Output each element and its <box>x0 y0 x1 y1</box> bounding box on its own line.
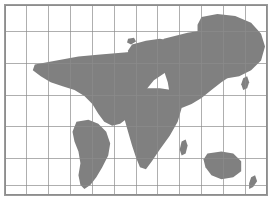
map-plot-area <box>4 4 268 196</box>
world-map-figure <box>0 0 272 203</box>
world-map-svg <box>5 5 267 195</box>
